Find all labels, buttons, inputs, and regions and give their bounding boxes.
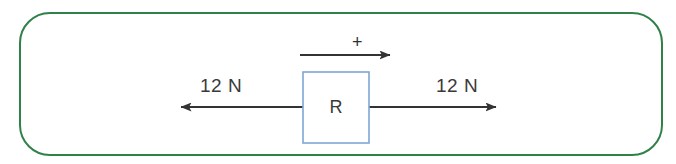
- body-label-r: R: [303, 98, 369, 116]
- force-label-right: 12 N: [436, 76, 478, 95]
- force-label-left: 12 N: [200, 76, 242, 95]
- positive-direction-label: +: [352, 33, 363, 51]
- force-diagram-figure: 12 N 12 N + R: [0, 0, 676, 164]
- diagram-canvas: [0, 0, 676, 164]
